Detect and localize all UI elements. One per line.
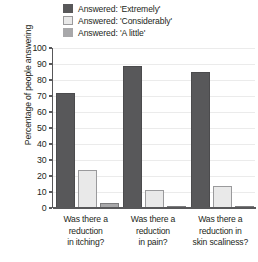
legend-label-extremely: Answered: 'Extremely' <box>78 4 160 14</box>
x-axis-label-line: reduction <box>117 226 188 238</box>
bars-layer <box>53 48 255 208</box>
bar-chart-figure: Answered: 'Extremely' Answered: 'Conside… <box>0 0 258 262</box>
legend-swatch-extremely <box>63 4 73 13</box>
bar-group <box>188 48 255 208</box>
legend-swatch-a-little <box>63 28 73 37</box>
y-axis-tick-label: 0 <box>42 203 47 212</box>
legend-label-considerably: Answered: 'Considerably' <box>78 16 172 26</box>
y-axis-tick-label: 70 <box>37 91 46 100</box>
x-axis-label-line: Was there a <box>185 214 256 226</box>
bar-considerably <box>213 186 232 208</box>
x-axis-category-label: Was there areductionin itching? <box>50 214 121 249</box>
plot-area <box>52 48 255 208</box>
x-axis-labels: Was there areductionin itching?Was there… <box>52 214 254 260</box>
x-axis-label-line: Was there a <box>117 214 188 226</box>
y-axis-tick-label: 50 <box>37 123 46 132</box>
x-axis-label-line: in pain? <box>117 237 188 249</box>
y-axis-tick-label: 20 <box>37 171 46 180</box>
y-axis-ticks: 1009080706050403020100 <box>0 48 52 208</box>
y-axis-tick-label: 80 <box>37 75 46 84</box>
x-axis-label-line: Was there a <box>50 214 121 226</box>
y-axis-tick-label: 90 <box>37 59 46 68</box>
bar-group <box>120 48 187 208</box>
chart-legend: Answered: 'Extremely' Answered: 'Conside… <box>63 3 255 39</box>
legend-item-extremely: Answered: 'Extremely' <box>63 3 255 14</box>
y-axis-tick-label: 30 <box>37 155 46 164</box>
x-axis-category-label: Was there areductionin pain? <box>117 214 188 249</box>
y-axis-tick-label: 40 <box>37 139 46 148</box>
x-axis-category-label: Was there areduction inskin scaliness? <box>185 214 256 249</box>
bar-considerably <box>145 190 164 208</box>
x-axis-label-line: skin scaliness? <box>185 237 256 249</box>
x-axis-label-line: reduction in <box>185 226 256 238</box>
x-axis-label-line: reduction <box>50 226 121 238</box>
y-axis-tick-label: 100 <box>32 43 46 52</box>
bar-extremely <box>123 66 142 208</box>
legend-item-a-little: Answered: 'A little' <box>63 27 255 38</box>
x-axis-line <box>53 207 256 209</box>
legend-swatch-considerably <box>63 16 73 25</box>
bar-group <box>53 48 120 208</box>
y-axis-tick-label: 10 <box>37 187 46 196</box>
bar-considerably <box>78 170 97 208</box>
legend-item-considerably: Answered: 'Considerably' <box>63 15 255 26</box>
x-axis-label-line: in itching? <box>50 237 121 249</box>
y-axis-tick-label: 60 <box>37 107 46 116</box>
legend-label-a-little: Answered: 'A little' <box>78 28 145 38</box>
bar-extremely <box>56 93 75 208</box>
bar-extremely <box>191 72 210 208</box>
